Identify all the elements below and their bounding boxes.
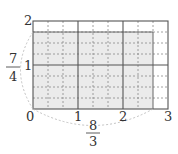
x-fraction-denominator: 3: [89, 134, 97, 149]
y-tick-2: 2: [24, 13, 32, 28]
x-tick-1: 1: [74, 109, 82, 124]
x-tick-3: 3: [164, 109, 172, 124]
x-tick-0: 0: [26, 109, 34, 124]
y-tick-1: 1: [24, 58, 32, 73]
x-fraction-numerator: 8: [89, 118, 97, 133]
y-fraction-numerator: 7: [9, 51, 17, 66]
area-model-diagram: 0 1 2 3 1 2 7 4 8 3: [0, 0, 178, 154]
x-tick-2: 2: [119, 109, 127, 124]
y-fraction-denominator: 4: [9, 69, 17, 84]
